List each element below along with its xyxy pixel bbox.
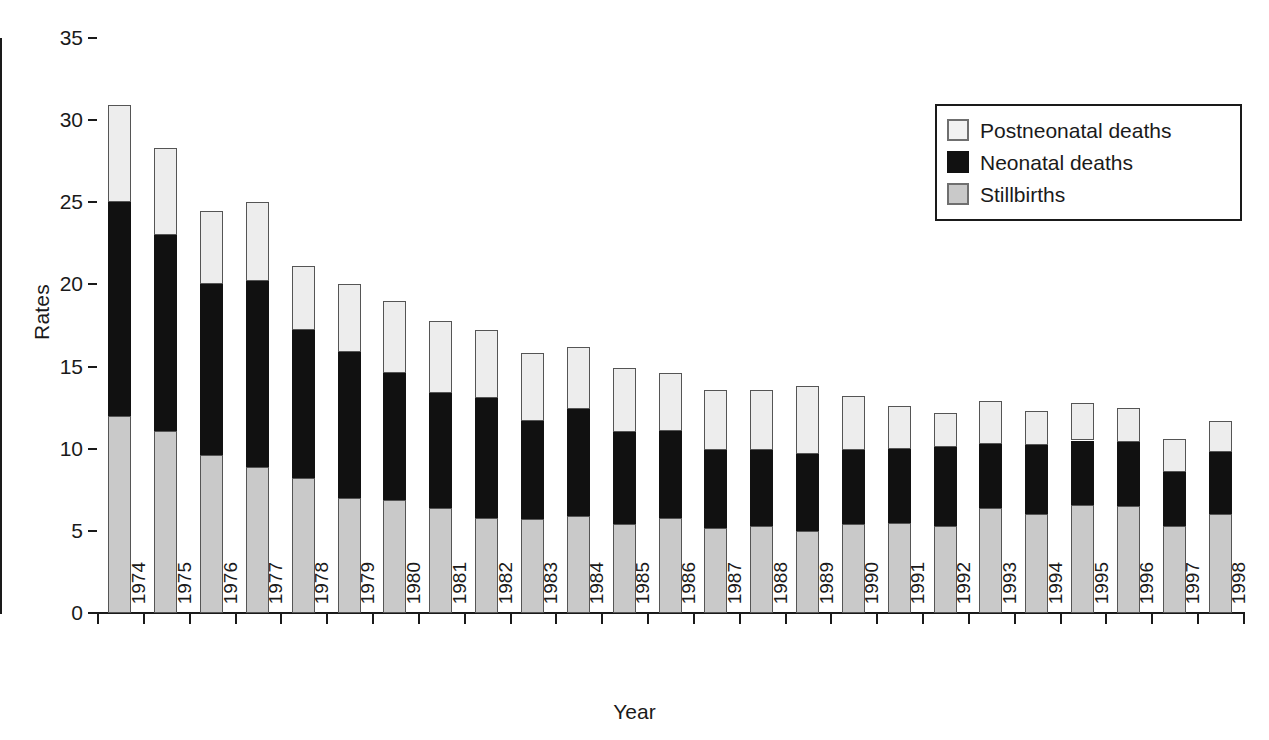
bar-segment-stillbirths: [292, 478, 315, 613]
bar-1986[interactable]: [659, 38, 682, 613]
bar-segment-neonatal: [842, 450, 865, 524]
x-tick-label-1990: 1990: [862, 562, 881, 632]
bar-segment-stillbirths: [108, 416, 131, 613]
x-tick: [693, 614, 695, 624]
legend-item-postneonatal[interactable]: Postneonatal deaths: [947, 114, 1230, 146]
bar-segment-stillbirths: [1071, 505, 1094, 613]
x-tick: [326, 614, 328, 624]
bar-segment-neonatal: [246, 281, 269, 467]
legend-item-stillbirths[interactable]: Stillbirths: [947, 178, 1230, 210]
bar-1976[interactable]: [200, 38, 223, 613]
bar-1977[interactable]: [246, 38, 269, 613]
x-tick: [97, 614, 99, 624]
bar-1988[interactable]: [750, 38, 773, 613]
bar-segment-stillbirths: [475, 518, 498, 613]
bar-1990[interactable]: [842, 38, 865, 613]
x-tick: [1060, 614, 1062, 624]
bar-segment-neonatal: [567, 409, 590, 516]
bar-1980[interactable]: [383, 38, 406, 613]
y-tick-label: 15: [37, 356, 83, 377]
legend-item-neonatal[interactable]: Neonatal deaths: [947, 146, 1230, 178]
bar-1979[interactable]: [338, 38, 361, 613]
bar-segment-neonatal: [704, 450, 727, 527]
x-tick-label-1983: 1983: [541, 562, 560, 632]
swatch-stillbirths-icon: [947, 183, 969, 205]
x-tick: [555, 614, 557, 624]
bar-segment-neonatal: [1209, 452, 1232, 514]
bar-segment-postneonatal: [659, 373, 682, 431]
bar-segment-postneonatal: [154, 148, 177, 235]
bar-segment-postneonatal: [521, 353, 544, 420]
bar-segment-stillbirths: [888, 523, 911, 613]
bar-segment-neonatal: [796, 454, 819, 531]
bar-segment-neonatal: [475, 398, 498, 518]
bar-segment-postneonatal: [1117, 408, 1140, 443]
x-tick: [418, 614, 420, 624]
x-tick: [235, 614, 237, 624]
bar-segment-postneonatal: [567, 347, 590, 409]
bar-segment-stillbirths: [934, 526, 957, 613]
bar-segment-neonatal: [1117, 442, 1140, 506]
bar-1975[interactable]: [154, 38, 177, 613]
x-tick: [830, 614, 832, 624]
x-tick-label-1980: 1980: [404, 562, 423, 632]
bar-segment-neonatal: [154, 235, 177, 431]
x-tick: [280, 614, 282, 624]
y-tick: [88, 366, 97, 368]
bar-1983[interactable]: [521, 38, 544, 613]
bar-segment-postneonatal: [200, 211, 223, 285]
x-tick-label-1989: 1989: [817, 562, 836, 632]
x-tick: [1105, 614, 1107, 624]
x-tick: [1014, 614, 1016, 624]
bar-segment-stillbirths: [200, 455, 223, 613]
y-axis-line: [0, 38, 2, 614]
bar-1978[interactable]: [292, 38, 315, 613]
x-tick-label-1985: 1985: [633, 562, 652, 632]
swatch-neonatal-icon: [947, 151, 969, 173]
bar-segment-stillbirths: [338, 498, 361, 613]
legend: Postneonatal deaths Neonatal deaths Stil…: [935, 104, 1242, 221]
y-tick-label: 35: [37, 27, 83, 48]
x-tick-label-1993: 1993: [1000, 562, 1019, 632]
bar-segment-stillbirths: [796, 531, 819, 613]
bar-1989[interactable]: [796, 38, 819, 613]
y-tick-label: 25: [37, 191, 83, 212]
y-tick: [88, 283, 97, 285]
y-tick: [88, 119, 97, 121]
x-tick: [647, 614, 649, 624]
bar-1982[interactable]: [475, 38, 498, 613]
bar-segment-stillbirths: [750, 526, 773, 613]
x-tick: [1243, 614, 1245, 624]
bar-segment-neonatal: [659, 431, 682, 518]
x-tick: [464, 614, 466, 624]
bar-1981[interactable]: [429, 38, 452, 613]
bar-segment-neonatal: [200, 284, 223, 455]
bar-segment-stillbirths: [567, 516, 590, 613]
x-tick: [876, 614, 878, 624]
bar-segment-stillbirths: [246, 467, 269, 613]
bar-segment-stillbirths: [154, 431, 177, 613]
x-tick-label-1991: 1991: [908, 562, 927, 632]
bar-1974[interactable]: [108, 38, 131, 613]
bar-1987[interactable]: [704, 38, 727, 613]
bar-segment-stillbirths: [659, 518, 682, 613]
bar-segment-postneonatal: [888, 406, 911, 449]
bar-segment-stillbirths: [383, 500, 406, 613]
bar-segment-stillbirths: [613, 524, 636, 613]
bar-segment-neonatal: [108, 202, 131, 416]
bar-segment-postneonatal: [338, 284, 361, 351]
bar-1984[interactable]: [567, 38, 590, 613]
bar-segment-neonatal: [292, 330, 315, 478]
bar-1985[interactable]: [613, 38, 636, 613]
bar-segment-postneonatal: [475, 330, 498, 397]
x-tick: [968, 614, 970, 624]
stacked-bar-chart: Rates Year 05101520253035 19741975197619…: [0, 0, 1269, 740]
bar-segment-postneonatal: [246, 202, 269, 281]
bar-segment-neonatal: [429, 393, 452, 508]
bar-segment-postneonatal: [292, 266, 315, 330]
bar-segment-neonatal: [888, 449, 911, 523]
bar-segment-postneonatal: [979, 401, 1002, 444]
bar-segment-neonatal: [1071, 441, 1094, 505]
swatch-postneonatal-icon: [947, 119, 969, 141]
bar-1991[interactable]: [888, 38, 911, 613]
